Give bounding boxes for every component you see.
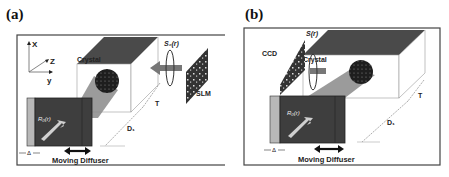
slm-label: SLM (196, 90, 211, 97)
signal-label: S₀(r) (164, 40, 179, 48)
speckle-circle (349, 60, 373, 84)
crystal-label: Crystal (77, 56, 101, 64)
panel-b-diagram: Crystal CCD S(r) T D₁ R₀(r) Δ Moving Dif… (225, 0, 449, 177)
axis-y-label: y (47, 76, 52, 85)
offset-label: Δ (272, 147, 276, 153)
ccd-label: CCD (262, 50, 277, 57)
axis-x-label: X (32, 40, 38, 49)
reference-label: R₀(r) (287, 110, 300, 116)
distance-label: D₁ (127, 125, 135, 132)
offset-label: Δ (27, 150, 31, 156)
reference-label: R₀(r) (38, 116, 51, 122)
thickness-label: T (155, 100, 160, 107)
diffuser-label: Moving Diffuser (298, 155, 355, 164)
axis-z-label: Z (50, 57, 55, 66)
distance-label: D₁ (387, 119, 395, 126)
signal-label: S(r) (306, 30, 319, 38)
thickness-label: T (418, 92, 423, 99)
speckle-circle (95, 69, 119, 93)
panel-a-diagram: X Z y Crystal S₀(r) SLM T D₁ R₀(r) Δ Mov… (0, 0, 225, 177)
diffuser-label: Moving Diffuser (52, 156, 109, 165)
signal-beam (310, 68, 326, 74)
